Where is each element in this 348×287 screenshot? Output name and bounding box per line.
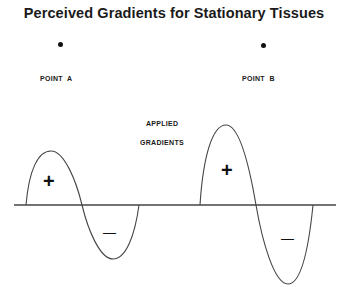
right-negative-sign: — [281, 232, 294, 245]
left-positive-sign: + [43, 171, 55, 191]
gradient-waveform-plot [0, 0, 348, 287]
right-positive-sign: + [221, 160, 233, 180]
left-negative-sign: — [103, 226, 116, 239]
